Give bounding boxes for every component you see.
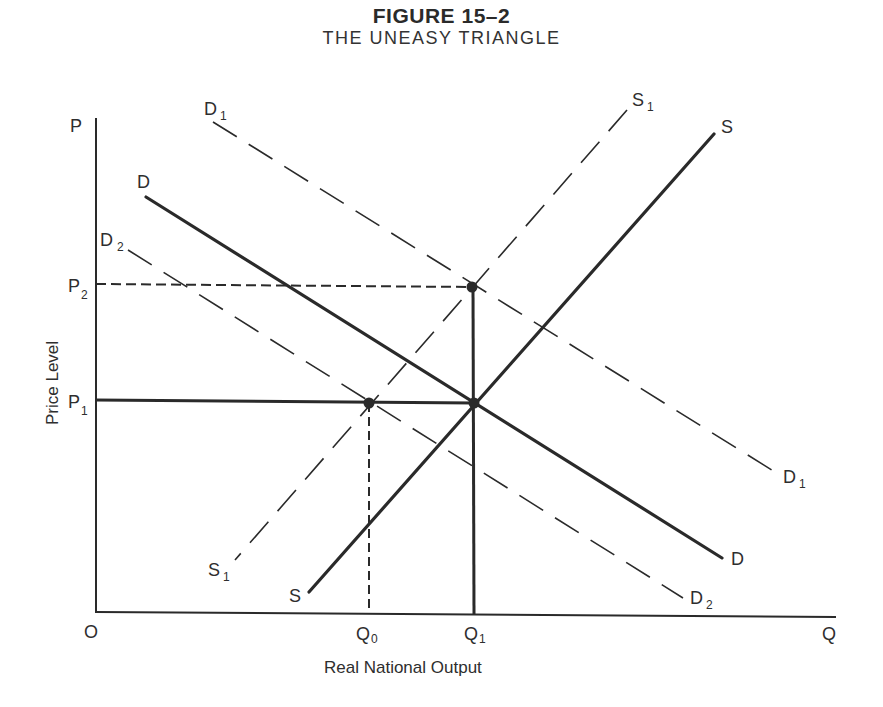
x-tick-q0: Q 0 xyxy=(356,624,378,646)
svg-text:2: 2 xyxy=(81,288,88,302)
svg-text:D: D xyxy=(690,588,703,608)
demand-curve-d2 xyxy=(128,250,683,598)
y-axis-symbol: P xyxy=(70,116,82,136)
svg-text:P: P xyxy=(68,392,80,412)
svg-text:1: 1 xyxy=(647,100,654,114)
svg-text:S: S xyxy=(632,90,644,110)
svg-text:1: 1 xyxy=(799,477,806,491)
svg-text:2: 2 xyxy=(706,598,713,612)
equilibrium-point-p1-q1 xyxy=(469,398,480,409)
origin-label: O xyxy=(84,622,98,642)
svg-text:P: P xyxy=(68,276,80,296)
supply-curve-s1 xyxy=(235,110,627,560)
equilibrium-point-p2-q1 xyxy=(467,282,478,293)
equilibrium-point-p1-q0 xyxy=(364,398,375,409)
svg-text:D: D xyxy=(783,467,796,487)
x-axis-symbol: Q xyxy=(822,624,836,644)
demand-curve-d xyxy=(146,197,722,558)
label-d-end: D xyxy=(731,549,744,569)
svg-text:2: 2 xyxy=(117,240,124,254)
q1-guide-line xyxy=(473,287,474,615)
y-tick-p1: P 1 xyxy=(68,392,88,418)
label-d2-start: D 2 xyxy=(100,230,124,254)
x-axis-title: Real National Output xyxy=(324,658,482,677)
y-tick-p2: P 2 xyxy=(68,276,88,302)
label-d1-start: D 1 xyxy=(204,99,227,123)
p1-guide-line xyxy=(96,400,474,403)
label-s1-end: S 1 xyxy=(632,90,654,114)
y-axis-title: Price Level xyxy=(43,341,62,425)
svg-text:S: S xyxy=(208,560,220,580)
x-tick-q1: Q 1 xyxy=(464,624,486,646)
uneasy-triangle-diagram: P O Q Price Level Real National Output P… xyxy=(0,0,883,707)
svg-text:0: 0 xyxy=(371,632,378,646)
svg-text:1: 1 xyxy=(479,632,486,646)
svg-text:Q: Q xyxy=(356,624,370,644)
svg-text:Q: Q xyxy=(464,624,478,644)
svg-text:1: 1 xyxy=(223,570,230,584)
svg-text:D: D xyxy=(100,230,113,250)
label-d-start: D xyxy=(137,172,150,192)
svg-text:D: D xyxy=(204,99,217,119)
label-d2-end: D 2 xyxy=(690,588,713,612)
label-s-start: S xyxy=(289,586,301,606)
supply-curve-s xyxy=(309,134,714,592)
svg-text:1: 1 xyxy=(220,109,227,123)
label-s-end: S xyxy=(721,117,733,137)
demand-curve-d1 xyxy=(213,122,775,472)
label-s1-start: S 1 xyxy=(208,560,230,584)
x-axis xyxy=(96,612,836,617)
label-d1-end: D 1 xyxy=(783,467,806,491)
svg-text:1: 1 xyxy=(81,404,88,418)
